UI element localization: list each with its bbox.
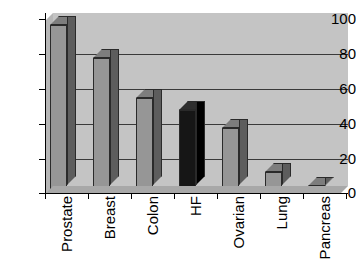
y-tick-label-40: 40 bbox=[322, 116, 356, 131]
bar-side-face bbox=[67, 16, 76, 185]
bar-ovarian bbox=[222, 0, 248, 194]
bar-side-face bbox=[196, 101, 205, 185]
x-axis-label-pancreas: Pancreas bbox=[316, 196, 333, 259]
y-tick-mark-100 bbox=[39, 19, 46, 20]
x-tick-mark-1 bbox=[88, 193, 89, 199]
bar-breast bbox=[93, 0, 119, 194]
x-tick-mark-6 bbox=[303, 193, 304, 199]
x-tick-mark-2 bbox=[131, 193, 132, 199]
x-tick-mark-7 bbox=[346, 193, 347, 199]
bar-colon bbox=[136, 0, 162, 194]
bar-prostate bbox=[50, 0, 76, 194]
bar-front-face bbox=[222, 128, 239, 194]
bar-lung bbox=[265, 0, 291, 194]
x-tick-mark-4 bbox=[217, 193, 218, 199]
y-tick-mark-60 bbox=[39, 89, 46, 90]
bar-chart: 100 80 60 40 20 0 Prostate Breast Colon … bbox=[0, 0, 356, 275]
y-tick-mark-20 bbox=[39, 159, 46, 160]
x-tick-mark-0 bbox=[45, 193, 46, 199]
y-tick-label-100: 100 bbox=[322, 11, 356, 26]
x-axis-label-colon: Colon bbox=[144, 196, 161, 235]
bar-hf bbox=[179, 0, 205, 194]
x-axis-label-lung: Lung bbox=[273, 196, 290, 229]
bar-front-face bbox=[136, 98, 153, 194]
bar-front-face bbox=[50, 25, 67, 194]
x-tick-mark-3 bbox=[174, 193, 175, 199]
bar-front-face bbox=[93, 58, 110, 194]
x-axis-label-ovarian: Ovarian bbox=[230, 196, 247, 249]
bar-side-face bbox=[153, 89, 162, 185]
x-tick-mark-5 bbox=[260, 193, 261, 199]
y-tick-mark-40 bbox=[39, 124, 46, 125]
x-axis-label-hf: HF bbox=[187, 196, 204, 216]
x-axis-label-prostate: Prostate bbox=[58, 196, 75, 252]
y-axis-line bbox=[45, 13, 46, 193]
bar-side-face bbox=[239, 119, 248, 185]
bar-side-face bbox=[282, 163, 291, 185]
y-tick-mark-80 bbox=[39, 54, 46, 55]
y-tick-label-60: 60 bbox=[322, 81, 356, 96]
bar-front-face bbox=[179, 110, 196, 194]
y-tick-label-80: 80 bbox=[322, 46, 356, 61]
x-axis-label-breast: Breast bbox=[101, 196, 118, 239]
bar-side-face bbox=[110, 49, 119, 185]
y-tick-label-20: 20 bbox=[322, 151, 356, 166]
